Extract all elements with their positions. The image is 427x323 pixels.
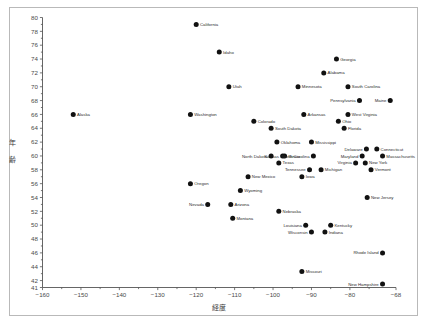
x-tick-label: −80: [345, 291, 356, 298]
point-label: South Dakota: [275, 126, 302, 131]
y-tick-label: 64: [31, 124, 38, 131]
data-point: Arizona: [228, 202, 249, 207]
point-marker: [380, 282, 385, 287]
point-marker: [188, 112, 193, 117]
point-marker: [217, 50, 222, 55]
point-label: South Carolina: [352, 84, 381, 89]
data-point: Colorado: [251, 119, 275, 124]
data-point: Wyoming: [238, 188, 263, 193]
data-point: Virginia: [338, 160, 359, 165]
point-label: Wyoming: [244, 188, 262, 193]
point-label: Wisconsin: [288, 230, 308, 235]
point-marker: [274, 140, 279, 145]
point-marker: [328, 223, 333, 228]
point-marker: [322, 230, 327, 235]
point-label: Alaska: [77, 112, 91, 117]
y-tick-label: 44: [31, 263, 38, 270]
data-point: Maryland: [341, 153, 365, 158]
plot-area: 4142444648505254565860626466687072747678…: [0, 0, 427, 323]
y-axis-title: 年: [9, 138, 16, 147]
x-tick-label: −160: [36, 291, 50, 298]
point-label: North Carolina: [282, 154, 310, 159]
y-tick-label: 56: [31, 180, 38, 187]
data-point: Louisiana: [283, 223, 308, 228]
point-marker: [269, 153, 274, 158]
data-point: Oregon: [188, 181, 209, 186]
x-tick-label: −100: [266, 291, 280, 298]
data-point: Kentucky: [328, 223, 353, 228]
data-point: Florida: [342, 126, 362, 131]
data-points: CaliforniaIdahoGeorgiaAlabamaUtahMinneso…: [71, 22, 415, 287]
point-marker: [345, 84, 350, 89]
point-label: Connecticut: [381, 147, 404, 152]
data-point: West Virginia: [345, 112, 377, 117]
scatter-plot-figure: 4142444648505254565860626466687072747678…: [0, 0, 427, 323]
point-marker: [360, 153, 365, 158]
data-point: Arkansas: [301, 112, 325, 117]
data-point: Ohio: [336, 119, 352, 124]
point-marker: [334, 57, 339, 62]
point-label: Nevada: [189, 202, 204, 207]
y-tick-label: 54: [31, 194, 38, 201]
y-tick-label: 78: [31, 28, 38, 35]
point-label: New Mexico: [252, 174, 276, 179]
y-tick-label: 58: [31, 166, 38, 173]
point-marker: [342, 126, 347, 131]
data-point: Maine: [375, 98, 393, 103]
point-marker: [299, 174, 304, 179]
data-point: South Dakota: [269, 126, 302, 131]
point-marker: [205, 202, 210, 207]
point-label: North Dakota: [242, 154, 268, 159]
point-label: New York: [369, 160, 388, 165]
point-label: Tennessee: [285, 167, 306, 172]
point-label: Georgia: [340, 57, 356, 62]
y-tick-label: 46: [31, 249, 38, 256]
point-marker: [299, 269, 304, 274]
y-tick-label: 41: [31, 284, 38, 291]
y-axis: 4142444648505254565860626466687072747678…: [31, 14, 42, 291]
point-marker: [303, 223, 308, 228]
point-label: Idaho: [223, 50, 234, 55]
data-point: Oklahoma: [274, 140, 300, 145]
y-tick-label: 60: [31, 152, 38, 159]
y-tick-label: 52: [31, 208, 38, 215]
data-point: Minnesota: [296, 84, 323, 89]
point-marker: [246, 174, 251, 179]
x-tick-label: −140: [112, 291, 126, 298]
point-marker: [321, 70, 326, 75]
data-point: Pennsylvania: [330, 98, 362, 103]
point-label: Minnesota: [302, 84, 322, 89]
data-point: Massachusetts: [380, 153, 415, 158]
point-marker: [226, 84, 231, 89]
point-label: Ohio: [342, 119, 352, 124]
point-label: Maryland: [341, 154, 359, 159]
data-point: Washington: [188, 112, 217, 117]
point-marker: [188, 181, 193, 186]
point-marker: [311, 153, 316, 158]
point-label: Delaware: [344, 147, 363, 152]
data-point: Texas: [276, 160, 294, 165]
point-label: Vermont: [375, 167, 392, 172]
data-point: Missouri: [299, 269, 321, 274]
point-label: Missouri: [306, 269, 322, 274]
point-label: California: [200, 22, 219, 27]
y-tick-label: 72: [31, 69, 38, 76]
point-marker: [309, 230, 314, 235]
x-axis: −160−150−140−130−120−110−100−90−80−68: [36, 288, 402, 299]
data-point: North Carolina: [282, 153, 316, 158]
y-tick-label: 68: [31, 97, 38, 104]
point-label: Oregon: [194, 181, 209, 186]
y-tick-label: 70: [31, 83, 38, 90]
data-point: Wisconsin: [288, 230, 314, 235]
point-marker: [276, 160, 281, 165]
point-label: Kentucky: [334, 223, 353, 228]
y-tick-label: 76: [31, 41, 38, 48]
x-tick-label: −110: [228, 291, 242, 298]
point-label: Mississippi: [315, 140, 336, 145]
point-label: Texas: [283, 160, 294, 165]
data-point: New Hampshire: [348, 282, 385, 287]
point-marker: [307, 167, 312, 172]
point-marker: [357, 98, 362, 103]
point-marker: [319, 167, 324, 172]
point-marker: [309, 140, 314, 145]
